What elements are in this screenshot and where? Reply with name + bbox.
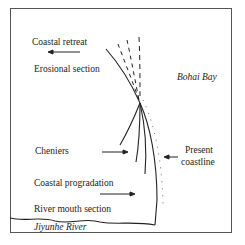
retreat-line-1 bbox=[118, 44, 139, 100]
bohai-bay-label: Bohai Bay bbox=[177, 72, 217, 82]
erosional-section-label: Erosional section bbox=[34, 64, 100, 74]
progradation-arrow bbox=[100, 192, 135, 196]
jiyunhe-river-label: Jiyunhe River bbox=[34, 222, 87, 232]
cheniers-arrow bbox=[102, 150, 128, 154]
cheniers-label: Cheniers bbox=[35, 146, 69, 156]
present-coastline-label-1: Present bbox=[185, 145, 213, 155]
retreat-line-2 bbox=[127, 40, 139, 100]
river-mouth-section-label: River mouth section bbox=[34, 204, 111, 214]
coastline-solid bbox=[140, 103, 157, 225]
chenier-3 bbox=[140, 103, 146, 174]
chenier-1 bbox=[120, 103, 140, 145]
coastal-progradation-label: Coastal progradation bbox=[34, 178, 113, 188]
coastline-arrow bbox=[164, 155, 178, 159]
retreat-line-3 bbox=[139, 37, 140, 100]
erosional-shoreline bbox=[106, 49, 140, 103]
retreat-arrow bbox=[48, 50, 80, 54]
coastal-retreat-label: Coastal retreat bbox=[32, 37, 87, 47]
present-coastline-label-2: coastline bbox=[181, 157, 215, 167]
